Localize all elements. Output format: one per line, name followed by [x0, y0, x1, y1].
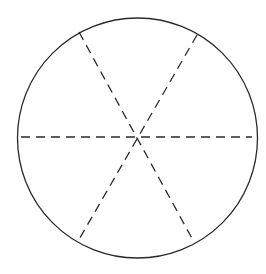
circle-diagram: [0, 0, 266, 274]
